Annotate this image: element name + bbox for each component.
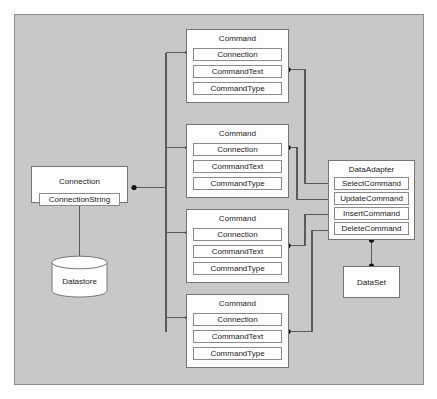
- node-command-3[interactable]: Command Connection CommandText CommandTy…: [186, 209, 289, 283]
- node-command-1[interactable]: Command Connection CommandText CommandTy…: [186, 29, 289, 103]
- node-connection[interactable]: Connection ConnectionString: [31, 166, 128, 203]
- command-1-attributes: Connection CommandText CommandType: [187, 48, 288, 100]
- connection-title: Connection: [32, 167, 127, 187]
- datastore-label: Datastore: [51, 277, 108, 286]
- node-datastore[interactable]: Datastore: [51, 255, 108, 298]
- command-3-attr-connection[interactable]: Connection: [193, 228, 282, 241]
- attr-deletecommand[interactable]: DeleteCommand: [334, 222, 409, 235]
- node-dataadapter[interactable]: DataAdapter SelectCommand UpdateCommand …: [328, 160, 415, 240]
- attr-connectionstring[interactable]: ConnectionString: [39, 193, 120, 206]
- command-2-attr-connection[interactable]: Connection: [193, 143, 282, 156]
- command-3-attr-commandtype[interactable]: CommandType: [193, 262, 282, 275]
- command-2-attributes: Connection CommandText CommandType: [187, 143, 288, 195]
- attr-selectcommand[interactable]: SelectCommand: [334, 177, 409, 190]
- node-command-2[interactable]: Command Connection CommandText CommandTy…: [186, 124, 289, 198]
- dataset-label: DataSet: [357, 278, 386, 287]
- node-dataset[interactable]: DataSet: [343, 266, 400, 298]
- command-4-attr-connection[interactable]: Connection: [193, 313, 282, 326]
- command-1-attr-commandtext[interactable]: CommandText: [193, 65, 282, 78]
- command-4-attr-commandtype[interactable]: CommandType: [193, 347, 282, 360]
- command-3-attributes: Connection CommandText CommandType: [187, 228, 288, 280]
- command-4-attr-commandtext[interactable]: CommandText: [193, 330, 282, 343]
- node-command-4[interactable]: Command Connection CommandText CommandTy…: [186, 294, 289, 368]
- command-2-attr-commandtext[interactable]: CommandText: [193, 160, 282, 173]
- command-1-attr-commandtype[interactable]: CommandType: [193, 82, 282, 95]
- command-3-title: Command: [187, 210, 288, 224]
- command-4-attributes: Connection CommandText CommandType: [187, 313, 288, 365]
- dataadapter-attributes: SelectCommand UpdateCommand InsertComman…: [329, 177, 414, 239]
- dataadapter-title: DataAdapter: [329, 161, 414, 175]
- command-4-title: Command: [187, 295, 288, 309]
- command-1-attr-connection[interactable]: Connection: [193, 48, 282, 61]
- command-2-title: Command: [187, 125, 288, 139]
- command-2-attr-commandtype[interactable]: CommandType: [193, 177, 282, 190]
- connection-attributes: ConnectionString: [32, 187, 127, 212]
- command-1-title: Command: [187, 30, 288, 44]
- diagram-root: Connection ConnectionString Datastore Co…: [0, 0, 437, 399]
- attr-updatecommand[interactable]: UpdateCommand: [334, 192, 409, 205]
- command-3-attr-commandtext[interactable]: CommandText: [193, 245, 282, 258]
- attr-insertcommand[interactable]: InsertCommand: [334, 207, 409, 220]
